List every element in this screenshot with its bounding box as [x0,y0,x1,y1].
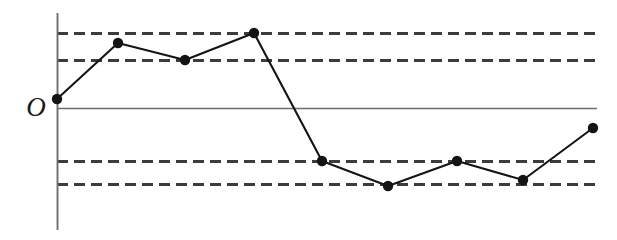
data-point [180,55,190,65]
data-point [588,123,598,133]
data-point-markers [52,28,598,191]
data-point [452,156,462,166]
line-chart: O [0,0,617,240]
data-point [249,28,259,38]
data-point [317,156,327,166]
data-point [518,175,528,185]
data-point [383,181,393,191]
origin-label: O [26,92,46,122]
chart-canvas: O [0,0,617,240]
data-point [113,38,123,48]
data-point [52,94,62,104]
